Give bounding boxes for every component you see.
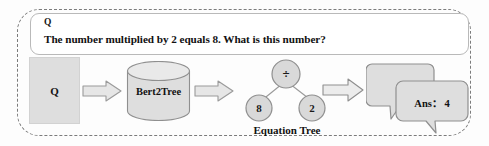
equation-tree: ÷ 8 2	[242, 56, 330, 130]
equation-tree-caption: Equation Tree	[236, 124, 338, 136]
tree-node-left: 8	[246, 95, 272, 121]
model-cylinder-label: Bert2Tree	[126, 86, 191, 97]
arrow-model-to-tree-icon	[194, 80, 234, 102]
figure-canvas: Q The number multiplied by 2 equals 8. W…	[0, 0, 489, 146]
answer-text: Ans： 4	[402, 95, 462, 110]
input-question-block-label: Q	[30, 85, 79, 97]
arrow-input-to-model-icon	[82, 80, 122, 102]
arrow-tree-to-answer-icon	[322, 78, 364, 102]
answer-speech-bubbles: Ans： 4	[366, 62, 472, 134]
input-question-block: Q	[29, 57, 80, 124]
pipeline-row: Q Bert2Tree	[0, 0, 489, 146]
model-cylinder: Bert2Tree	[126, 61, 191, 121]
tree-node-root: ÷	[272, 60, 300, 88]
